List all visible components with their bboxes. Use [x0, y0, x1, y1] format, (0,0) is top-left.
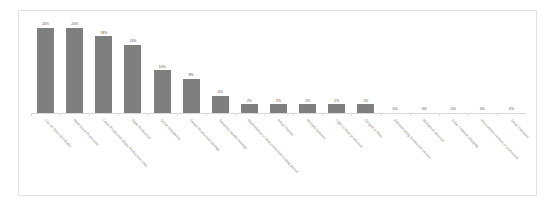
tick-mark [206, 113, 207, 116]
bar-slot: 2% [322, 19, 351, 113]
bar-value-label: 16% [129, 40, 136, 43]
category-label-slot: Solar / Vehicle charging [439, 117, 468, 193]
category-label-slot: Light to Heat production [322, 117, 351, 193]
bar-slot: 20% [31, 19, 60, 113]
bar [270, 104, 287, 113]
x-axis-tick [235, 113, 264, 116]
x-axis-tick [293, 113, 322, 116]
category-label-slot: Maintenance or new production tooling pe… [235, 117, 264, 193]
bar-value-label: 20% [42, 23, 49, 26]
category-label-slot: Multiple production [410, 117, 439, 193]
tick-mark [322, 113, 323, 116]
tick-mark [351, 113, 352, 116]
bar-slot: 16% [118, 19, 147, 113]
tick-mark [31, 113, 32, 116]
bar [37, 28, 54, 113]
bar-slot: 8% [177, 19, 206, 113]
bar [328, 104, 345, 113]
x-axis-tick [148, 113, 177, 116]
category-label-slot: Lite on Time LED Bulbs [31, 117, 60, 193]
x-axis-ticks [31, 113, 526, 116]
bar-value-label: 20% [71, 23, 78, 26]
bar-slot: 2% [293, 19, 322, 113]
bar-slot: 2% [351, 19, 380, 113]
bar-value-label: 4% [218, 91, 223, 94]
category-label-slot: Interconnect version of production [468, 117, 497, 193]
bar-slot: 0% [468, 19, 497, 113]
category-label: On grid or Plus [363, 119, 382, 139]
x-axis-tick [118, 113, 147, 116]
x-axis-tick [497, 113, 526, 116]
bar-series: 20%20%18%16%10%8%4%2%2%2%2%2%0%0%0%0%0% [31, 19, 526, 113]
tick-mark [60, 113, 61, 116]
category-label-slot: Tenant(s) Health Savings [206, 117, 235, 193]
category-label-slot: New Stock Production [60, 117, 89, 193]
x-axis-tick [381, 113, 410, 116]
tick-mark [148, 113, 149, 116]
x-axis-tick [468, 113, 497, 116]
x-axis-tick [439, 113, 468, 116]
bar [212, 96, 229, 113]
tick-mark [439, 113, 440, 116]
bar [95, 36, 112, 113]
bar-value-label: 2% [363, 100, 368, 103]
bar-value-label: 0% [422, 108, 427, 111]
category-label: Smart Dimmers [509, 119, 529, 140]
x-axis-tick [410, 113, 439, 116]
category-label-slot: Asset Tracker [264, 117, 293, 193]
bar-value-label: 0% [393, 108, 398, 111]
bar [154, 70, 171, 113]
category-label-slot: Quick Installation [148, 117, 177, 193]
x-axis-tick [351, 113, 380, 116]
x-axis-tick [31, 113, 60, 116]
tick-mark [293, 113, 294, 116]
bar-slot: 18% [89, 19, 118, 113]
tick-mark [410, 113, 411, 116]
bar-value-label: 0% [509, 108, 514, 111]
bar-slot: 2% [235, 19, 264, 113]
bar-value-label: 0% [451, 108, 456, 111]
tick-mark [118, 113, 119, 116]
bar [183, 79, 200, 113]
tick-mark [468, 113, 469, 116]
category-label-slot: Laser Production (Easy Production Line) [89, 117, 118, 193]
category-label: Asset Tracker [276, 119, 294, 138]
bar [124, 45, 141, 113]
bar-value-label: 2% [247, 100, 252, 103]
bar-value-label: 0% [480, 108, 485, 111]
bar [66, 28, 83, 113]
tick-mark [264, 113, 265, 116]
bar-value-label: 2% [276, 100, 281, 103]
tick-mark [89, 113, 90, 116]
plot-area: 20%20%18%16%10%8%4%2%2%2%2%2%0%0%0%0%0% [31, 19, 526, 113]
bar-value-label: 2% [305, 100, 310, 103]
tick-mark [497, 113, 498, 116]
bar-slot: 4% [206, 19, 235, 113]
category-label-slot: Administrating production servers [381, 117, 410, 193]
x-axis-tick [206, 113, 235, 116]
x-axis-tick [60, 113, 89, 116]
x-axis-tick [322, 113, 351, 116]
bar-slot: 0% [410, 19, 439, 113]
tick-mark [235, 113, 236, 116]
x-axis-category-labels: Lite on Time LED BulbsNew Stock Producti… [31, 117, 526, 193]
bar-slot: 10% [148, 19, 177, 113]
x-axis-tick [264, 113, 293, 116]
x-axis-tick [177, 113, 206, 116]
bar-slot: 0% [439, 19, 468, 113]
bar [299, 104, 316, 113]
category-label-slot: Agile Production [118, 117, 147, 193]
bar-slot: 0% [497, 19, 526, 113]
bar-slot: 0% [381, 19, 410, 113]
bar-value-label: 2% [334, 100, 339, 103]
tick-mark [381, 113, 382, 116]
bar [241, 104, 258, 113]
bar [357, 104, 374, 113]
category-label-slot: Multiple Sensors [293, 117, 322, 193]
bar-slot: 2% [264, 19, 293, 113]
bar-value-label: 8% [189, 74, 194, 77]
bar-value-label: 18% [100, 32, 107, 35]
bar-value-label: 10% [159, 66, 166, 69]
category-label-slot: On grid or Plus [351, 117, 380, 193]
bar-slot: 20% [60, 19, 89, 113]
